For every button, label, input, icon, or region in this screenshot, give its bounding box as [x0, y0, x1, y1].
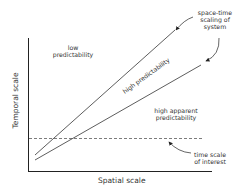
label-line: predictability — [52, 51, 94, 58]
annotation-time-scale-of-interest: time scale of interest — [190, 151, 230, 165]
x-axis-label: Spatial scale — [98, 176, 146, 185]
y-axis-label: Temporal scale — [11, 69, 20, 133]
label-line: system — [193, 23, 237, 30]
arrow-to-upper-line — [176, 17, 193, 30]
label-line: time scale — [190, 151, 230, 158]
annotation-space-time-scaling: space-time scaling of system — [193, 9, 237, 30]
label-line: high apparent — [150, 107, 202, 114]
arrow-to-lower-line — [206, 38, 219, 61]
label-line: scaling of — [193, 16, 237, 23]
label-line: of interest — [190, 158, 230, 165]
label-line: space-time — [193, 9, 237, 16]
label-high-apparent-predictability: high apparent predictability — [150, 107, 202, 121]
axes — [28, 38, 212, 172]
label-low-predictability: low predictability — [52, 44, 94, 58]
label-line: predictability — [150, 114, 202, 121]
label-line: low — [52, 44, 94, 51]
arrow-to-dashed-line — [169, 142, 191, 153]
